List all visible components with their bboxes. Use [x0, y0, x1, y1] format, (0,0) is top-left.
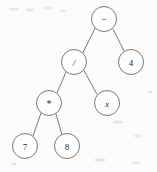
- tree-edge-layer: [33, 28, 124, 137]
- tree-node-n0: −: [92, 7, 117, 32]
- tree-edge-n1-n4: [84, 71, 97, 95]
- tree-node-layer: −/4*x78: [13, 7, 144, 159]
- tree-edge-n0-n2: [113, 29, 124, 51]
- node-label: 7: [23, 142, 28, 152]
- tree-edge-n0-n1: [83, 28, 96, 54]
- scan-speck: [60, 10, 66, 12]
- tree-node-n3: *: [37, 91, 62, 116]
- scan-speck: [113, 120, 123, 123]
- expression-tree-canvas: −/4*x78: [0, 0, 157, 172]
- scan-speck: [134, 135, 142, 138]
- tree-node-n6: 8: [55, 134, 80, 159]
- scan-speck: [11, 163, 17, 165]
- scan-speck: [94, 158, 106, 161]
- tree-edge-n3-n5: [33, 113, 41, 136]
- scan-speck: [148, 91, 153, 93]
- node-label: x: [104, 99, 109, 109]
- expression-tree-diagram: −/4*x78: [0, 0, 157, 172]
- node-label: *: [47, 98, 52, 109]
- tree-node-n5: 7: [13, 134, 38, 159]
- scan-speck: [26, 9, 34, 12]
- tree-edge-n1-n3: [57, 72, 66, 93]
- node-label: 8: [65, 142, 70, 152]
- tree-node-n4: x: [95, 91, 120, 116]
- scan-speck: [45, 7, 52, 9]
- node-label: 4: [129, 58, 134, 68]
- scan-speck: [132, 162, 140, 165]
- scan-speck: [9, 7, 19, 10]
- tree-node-n2: 4: [119, 50, 144, 75]
- node-label: −: [101, 14, 107, 25]
- tree-edge-n3-n6: [56, 114, 62, 135]
- tree-node-n1: /: [62, 50, 87, 75]
